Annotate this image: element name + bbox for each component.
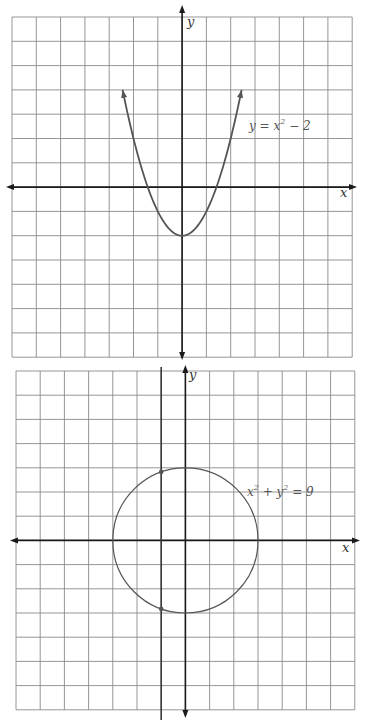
x-axis-arrow-left-icon [6,184,14,190]
x-axis-label: x [340,185,348,200]
y-axis-label: y [186,14,195,29]
y-axis-label: y [188,367,197,382]
circle-equation-label: x2 + y2 = 9 [247,483,314,499]
y-axis-arrow-down-icon [182,710,188,718]
y-axis-arrow-up-icon [182,365,188,373]
x-axis-arrow-right-icon [352,537,360,543]
circle-axes [10,365,360,718]
eq-rhs: = 9 [288,485,314,499]
eq-rhs: − 2 [285,119,310,133]
y-axis-arrow-up-icon [179,5,185,13]
y-axis-arrow-down-icon [179,352,185,360]
graphs-canvas: x y y = x2 − 2 x y x2 + y2 = 9 [0,0,367,726]
x-axis-arrow-right-icon [349,184,357,190]
eq-lhs: y = x [248,119,280,133]
circle-graph: x y x2 + y2 = 9 [10,365,360,720]
eq-term-y: + y [259,485,284,499]
x-axis-label: x [342,540,350,555]
parabola-graph: x y y = x2 − 2 [6,5,357,360]
x-axis-arrow-left-icon [10,537,18,543]
parabola-axes [6,5,357,360]
intersection-point [159,470,164,475]
parabola-equation-label: y = x2 − 2 [248,117,311,133]
intersection-point [159,607,164,612]
